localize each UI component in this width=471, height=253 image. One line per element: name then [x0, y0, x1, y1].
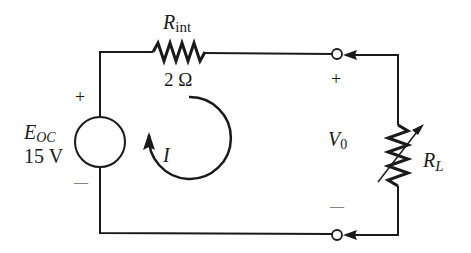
- circuit-diagram: [0, 0, 471, 253]
- wire-top-left: [100, 52, 153, 117]
- terminal-top: [332, 49, 342, 59]
- rl-variable-arrow-line: [378, 128, 420, 182]
- rint-value: 2 Ω: [164, 70, 192, 89]
- arrowhead-bottom-terminal: [343, 230, 357, 240]
- source-minus: —: [74, 176, 88, 190]
- wire-top-right: [205, 53, 333, 54]
- rint-symbol: R: [163, 11, 175, 33]
- output-plus: +: [331, 70, 341, 88]
- wire-bottom: [100, 167, 333, 234]
- wire-right-bottom: [350, 186, 398, 235]
- output-label: V0: [328, 129, 347, 152]
- voltage-source: [75, 117, 125, 167]
- terminal-bottom: [332, 230, 342, 240]
- rint-subscript: int: [175, 19, 191, 35]
- source-value: 15 V: [24, 146, 63, 166]
- current-label: I: [163, 145, 170, 165]
- source-symbol: E: [24, 121, 36, 143]
- source-subscript: OC: [36, 130, 55, 145]
- source-label: EOC: [24, 122, 56, 145]
- arrowhead-top-terminal: [343, 50, 357, 60]
- rl-label: RL: [423, 150, 444, 174]
- rl-subscript: L: [435, 158, 443, 174]
- rl-symbol: R: [423, 149, 435, 171]
- current-arrow-arc: [149, 97, 231, 179]
- resistor-rint: [153, 43, 205, 61]
- output-minus: —: [330, 200, 344, 214]
- wire-right-top: [350, 55, 398, 125]
- rl-arrowhead: [412, 124, 424, 135]
- output-subscript: 0: [340, 137, 347, 152]
- output-symbol: V: [328, 128, 340, 150]
- rint-label: Rint: [163, 12, 191, 35]
- source-plus: +: [75, 88, 85, 106]
